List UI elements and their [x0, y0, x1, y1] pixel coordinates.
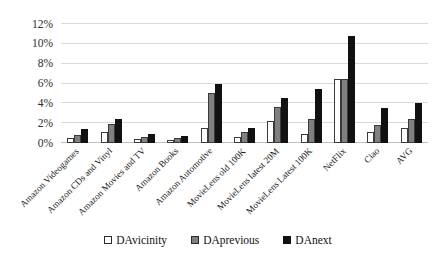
bar-group — [161, 24, 194, 143]
bar-DAnext — [348, 36, 355, 143]
bar-group — [194, 24, 227, 143]
x-tick-label: AVG — [394, 146, 414, 166]
x-tick-label: Amazon Videogames — [18, 146, 81, 209]
bar-DAvicinity — [401, 128, 408, 143]
bar-group — [261, 24, 294, 143]
bar-DAvicinity — [67, 138, 74, 143]
bar-DAnext — [415, 103, 422, 143]
bar-DAvicinity — [334, 79, 341, 143]
bar-DAprevious — [274, 107, 281, 143]
bar-group — [361, 24, 394, 143]
bar-DAnext — [315, 89, 322, 143]
bar-chart: 0%2%4%6%8%10%12% Amazon VideogamesAmazon… — [0, 0, 436, 268]
bar-DAvicinity — [134, 139, 141, 143]
bar-DAnext — [248, 128, 255, 143]
bar-groups — [61, 24, 428, 143]
legend-label: DAprevious — [203, 234, 259, 246]
legend-label: DAvicinity — [116, 234, 167, 246]
y-tick-label: 2% — [1, 117, 53, 129]
bar-DAnext — [81, 129, 88, 143]
black-square-icon — [283, 236, 291, 244]
bar-DAprevious — [108, 124, 115, 143]
bar-DAprevious — [208, 93, 215, 143]
bar-group — [61, 24, 94, 143]
y-tick-label: 12% — [1, 18, 53, 30]
bar-group — [128, 24, 161, 143]
legend-item[interactable]: DAprevious — [191, 234, 259, 246]
bar-DAprevious — [374, 125, 381, 143]
bar-DAvicinity — [367, 132, 374, 143]
plot-area — [61, 24, 428, 143]
white-square-icon — [104, 236, 112, 244]
y-tick-label: 10% — [1, 38, 53, 50]
bar-group — [295, 24, 328, 143]
x-tick-label: MovieLens Latest 100K — [244, 146, 314, 216]
legend-item[interactable]: DAnext — [283, 234, 331, 246]
bar-DAvicinity — [167, 140, 174, 143]
chart-legend: DAvicinityDApreviousDAnext — [0, 234, 436, 246]
bar-DAvicinity — [234, 137, 241, 143]
bar-DAvicinity — [201, 128, 208, 143]
x-tick-label: Ciao — [362, 146, 381, 165]
y-tick-label: 6% — [1, 78, 53, 90]
y-tick-label: 8% — [1, 58, 53, 70]
bar-DAprevious — [241, 132, 248, 143]
bar-DAvicinity — [301, 134, 308, 143]
bar-DAprevious — [308, 119, 315, 143]
bar-DAvicinity — [101, 132, 108, 143]
y-tick-label: 4% — [1, 98, 53, 110]
bar-group — [395, 24, 428, 143]
bar-DAnext — [181, 136, 188, 143]
bar-DAnext — [215, 84, 222, 144]
bar-group — [94, 24, 127, 143]
x-tick-label: MovieLens latest 20M — [215, 146, 281, 212]
bar-DAnext — [148, 134, 155, 143]
bar-group — [228, 24, 261, 143]
x-tick-label: MovieLens old 100K — [185, 146, 248, 209]
y-axis-labels: 0%2%4%6%8%10%12% — [0, 24, 57, 143]
legend-label: DAnext — [295, 234, 331, 246]
bar-DAnext — [281, 98, 288, 143]
x-tick-label: NetFlix — [321, 146, 348, 173]
bar-DAprevious — [408, 119, 415, 143]
bar-DAnext — [115, 119, 122, 143]
bar-DAprevious — [341, 79, 348, 143]
y-tick-label: 0% — [1, 137, 53, 149]
bar-group — [328, 24, 361, 143]
bar-DAprevious — [74, 135, 81, 143]
legend-item[interactable]: DAvicinity — [104, 234, 167, 246]
bar-DAvicinity — [267, 121, 274, 143]
gray-square-icon — [191, 236, 199, 244]
bar-DAprevious — [174, 138, 181, 143]
x-axis-labels: Amazon VideogamesAmazon CDs and VinylAma… — [61, 146, 428, 224]
bar-DAprevious — [141, 137, 148, 143]
bar-DAnext — [381, 108, 388, 143]
